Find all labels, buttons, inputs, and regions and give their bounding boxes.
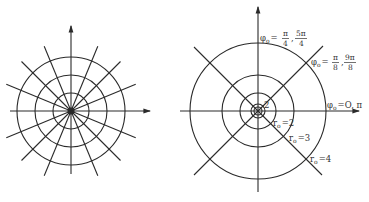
label-r-two: ro=2	[273, 118, 294, 129]
label-r-four: ro=4	[310, 154, 331, 165]
label-phi-quarter: φo= π 4 , 5π 4	[260, 29, 307, 48]
right-polar-grid: φo= π 4 , 5π 4 φo= π 8 , 9π 8 φo=O, π 2 …	[180, 7, 363, 192]
left-radial-line	[71, 111, 121, 161]
svg-text:8: 8	[348, 63, 353, 72]
svg-text:π: π	[283, 29, 288, 38]
left-radial-line	[22, 111, 72, 161]
label-r-one: 2	[264, 100, 269, 110]
left-polar-grid	[6, 26, 150, 176]
svg-text:φo=: φo=	[311, 57, 329, 68]
svg-text:9π: 9π	[345, 53, 355, 62]
svg-text:5π: 5π	[296, 29, 306, 38]
svg-text:,: ,	[291, 33, 294, 43]
label-phi-zero: φo=O, π	[327, 100, 363, 111]
svg-text:,: ,	[341, 57, 344, 67]
label-phi-eighth: φo= π 8 , 9π 8	[311, 53, 356, 72]
svg-text:4: 4	[283, 39, 288, 48]
left-radial-line	[71, 62, 121, 112]
svg-text:π: π	[333, 53, 338, 62]
svg-text:4: 4	[299, 39, 304, 48]
svg-text:φo=: φo=	[260, 33, 278, 44]
svg-text:8: 8	[333, 63, 338, 72]
diagram-canvas: φo= π 4 , 5π 4 φo= π 8 , 9π 8 φo=O, π 2 …	[0, 0, 369, 202]
left-radial-line	[22, 62, 72, 112]
label-r-three: ro=3	[289, 133, 310, 144]
